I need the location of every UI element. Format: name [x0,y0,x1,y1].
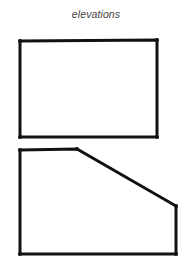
corner-dot [174,252,178,256]
corner-dot [18,148,22,152]
corner-dot [155,38,159,42]
elevation-rectangle [20,40,157,137]
elevations-drawing [0,0,192,272]
corner-dot [18,39,22,43]
corner-marks [18,38,178,256]
corner-dot [18,135,22,139]
corner-dot [174,204,178,208]
elevation-sloped-pentagon [20,149,176,254]
corner-dot [155,135,159,139]
corner-dot [75,147,79,151]
corner-dot [18,252,22,256]
